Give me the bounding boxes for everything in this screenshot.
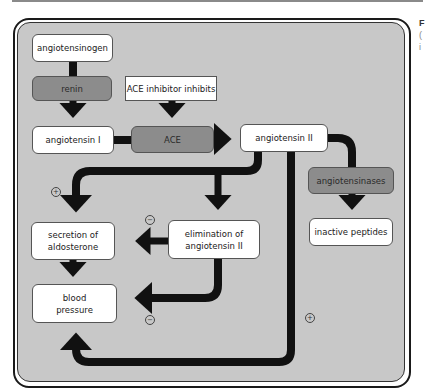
bp-line2: pressure bbox=[56, 304, 93, 316]
node-ace: ACE bbox=[131, 126, 214, 153]
node-inactive-peptides: inactive peptides bbox=[309, 218, 393, 246]
node-angiotensinogen: angiotensinogen bbox=[32, 34, 113, 62]
secretion-line1: secretion of bbox=[48, 229, 98, 241]
node-angiotensin-1: angiotensin I bbox=[32, 126, 114, 154]
node-ace-inhibitor: ACE inhibitor inhibits bbox=[125, 76, 217, 101]
plus-sign-direct-bp: + bbox=[305, 313, 315, 323]
caption-fragment-2: ( bbox=[419, 30, 422, 40]
caption-fragment-3: i bbox=[419, 42, 421, 52]
node-blood-pressure: blood pressure bbox=[32, 284, 117, 323]
elimination-line1: elimination of bbox=[185, 228, 243, 240]
minus-sign-elimination-bp: − bbox=[145, 315, 155, 325]
elimination-line2: angiotensin II bbox=[185, 240, 242, 252]
arrow-elimination-bp bbox=[140, 259, 218, 298]
arrow-angiotensin2-angiotensinases bbox=[328, 138, 352, 168]
node-elimination-angiotensin-2: elimination of angiotensin II bbox=[168, 220, 260, 259]
minus-sign-elimination-secretion: − bbox=[145, 215, 155, 225]
node-renin: renin bbox=[32, 76, 112, 101]
secretion-line2: aldosterone bbox=[48, 241, 98, 253]
node-secretion-aldosterone: secretion of aldosterone bbox=[31, 222, 115, 260]
bp-line1: blood bbox=[63, 292, 87, 304]
caption-fragment-1: F bbox=[419, 18, 425, 28]
arrow-angiotensin2-secretion bbox=[76, 152, 258, 207]
node-angiotensinases: angiotensinases bbox=[308, 167, 394, 194]
plus-sign-secretion: + bbox=[51, 187, 61, 197]
node-angiotensin-2: angiotensin II bbox=[240, 124, 328, 152]
